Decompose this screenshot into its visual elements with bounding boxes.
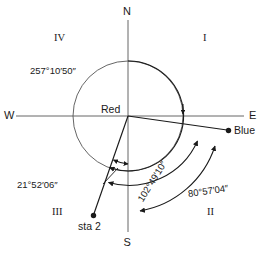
station-label-red: Red: [101, 104, 120, 115]
ray-red-to-blue: [128, 116, 227, 130]
compass-label-west: W: [4, 110, 14, 121]
azimuth-diagram: N S W E IV I III II Red Blue sta 2 257°1…: [0, 0, 272, 257]
station-label-blue: Blue: [234, 125, 255, 136]
ray-red-to-sta2: [94, 116, 129, 215]
point-sta2: [91, 213, 96, 218]
compass-label-south: S: [124, 237, 131, 248]
quadrant-label-iv: IV: [54, 33, 65, 44]
point-blue: [226, 128, 231, 133]
quadrant-label-ii: II: [207, 207, 214, 218]
leader-angle-21: [103, 168, 118, 184]
compass-label-north: N: [123, 6, 131, 17]
quadrant-label-i: I: [203, 33, 207, 44]
station-label-sta2: sta 2: [78, 221, 101, 232]
quadrant-label-iii: III: [52, 207, 63, 218]
diagram-canvas: [0, 0, 272, 257]
arc-angle-21: [114, 160, 129, 164]
compass-label-east: E: [249, 110, 256, 121]
angle-label-21: 21°52′06″: [17, 180, 58, 190]
angle-label-257: 257°10′50″: [30, 66, 76, 76]
